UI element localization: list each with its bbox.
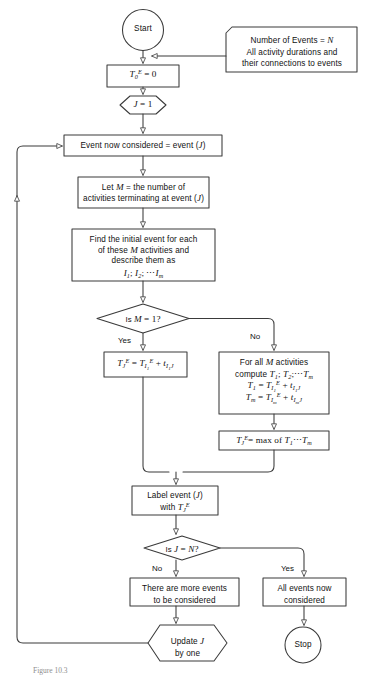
multi-compute-shape: [219, 352, 329, 414]
find-initial-shape: [72, 229, 215, 281]
stop-node-shape: [285, 627, 321, 663]
decision-m-yes-label: Yes: [118, 336, 131, 345]
update-j-shape: [148, 625, 227, 661]
label-event-shape: [132, 486, 218, 515]
let-m-shape: [78, 177, 209, 208]
edge-no-merge: [183, 450, 274, 472]
edge-yes-merge: [143, 377, 169, 472]
init-t0-shape: [107, 65, 179, 87]
edge-decision-no: [189, 319, 274, 351]
input-annotation-shape: [226, 27, 357, 72]
decision-m-shape: [97, 304, 189, 333]
start-node-shape: [123, 10, 164, 51]
all-done-shape: [263, 578, 346, 606]
single-formula-shape: [104, 352, 187, 377]
max-formula-shape: [219, 431, 329, 450]
event-considered-shape: [64, 135, 222, 156]
edge-feedback-loop: [17, 146, 148, 643]
decision-j-yes-label: Yes: [281, 564, 294, 573]
decision-m-no-label: No: [250, 332, 260, 341]
init-j-shape: [120, 96, 166, 114]
decision-j-shape: [144, 536, 220, 560]
decision-j-no-label: No: [152, 564, 162, 573]
more-events-shape: [130, 578, 239, 606]
figure-caption: Figure 10.3: [33, 666, 68, 675]
